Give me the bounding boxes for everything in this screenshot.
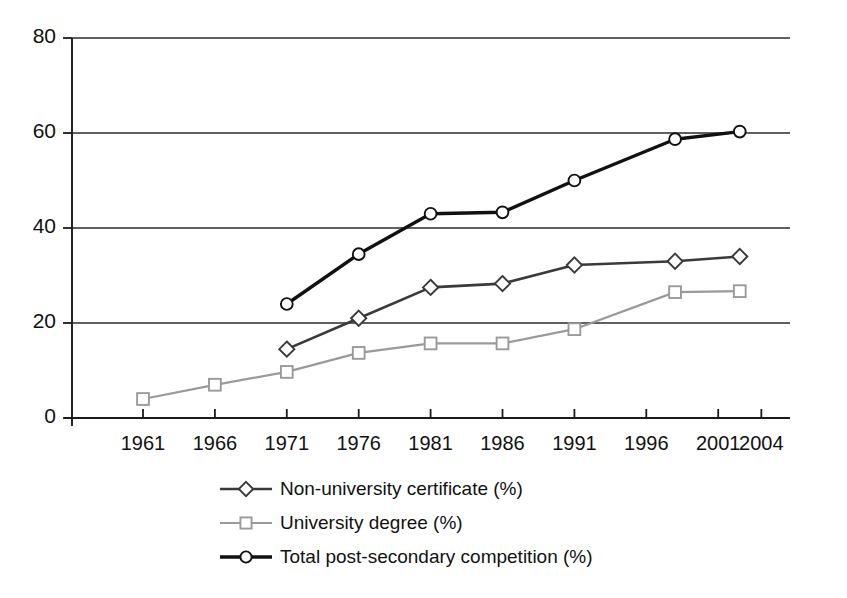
legend-item-0: Non-university certificate (%) (218, 472, 688, 506)
series-line-0 (287, 257, 740, 350)
x-tick-label-2004: 2004 (721, 432, 801, 455)
x-tick-label-1981: 1981 (391, 432, 471, 455)
series-markers (137, 126, 747, 405)
x-tick-label-1961: 1961 (103, 432, 183, 455)
x-tick-label-1996: 1996 (606, 432, 686, 455)
data-point-marker (669, 133, 681, 145)
data-point-marker (569, 175, 581, 187)
data-point-marker (669, 286, 681, 298)
data-point-marker (567, 257, 582, 272)
series-line-2 (287, 132, 740, 304)
legend-marker-circle-icon (218, 545, 274, 569)
y-tick-label-20: 20 (8, 309, 56, 333)
data-point-marker (281, 366, 293, 378)
data-point-marker (495, 276, 510, 291)
data-point-marker (209, 379, 221, 391)
legend-item-2: Total post-secondary competition (%) (218, 540, 688, 574)
data-point-marker (425, 338, 437, 350)
gridlines (72, 38, 790, 418)
data-point-marker (667, 254, 682, 269)
data-point-marker (425, 208, 437, 220)
data-point-marker (497, 206, 509, 218)
series-lines (143, 132, 740, 399)
legend-item-1: University degree (%) (218, 506, 688, 540)
x-tick-label-1971: 1971 (247, 432, 327, 455)
series-line-1 (143, 291, 740, 399)
x-tick-label-1991: 1991 (534, 432, 614, 455)
data-point-marker (423, 280, 438, 295)
data-point-marker (734, 285, 746, 297)
data-point-marker (497, 338, 509, 350)
y-tick-label-80: 80 (8, 24, 56, 48)
y-axis-ticks (63, 38, 72, 418)
chart-figure: 020406080 196119661971197619811986199119… (0, 0, 847, 598)
x-tick-label-1976: 1976 (319, 432, 399, 455)
data-point-marker (734, 126, 746, 138)
data-point-marker (353, 248, 365, 260)
data-point-marker (279, 342, 294, 357)
data-point-marker (281, 298, 293, 310)
legend-label: University degree (%) (274, 512, 463, 534)
legend-marker-diamond-icon (218, 477, 274, 501)
x-tick-label-1986: 1986 (463, 432, 543, 455)
y-tick-label-0: 0 (8, 404, 56, 428)
legend-marker-square-icon (218, 511, 274, 535)
chart-legend: Non-university certificate (%)University… (218, 472, 688, 574)
y-tick-label-40: 40 (8, 214, 56, 238)
x-axis-ticks (143, 409, 761, 418)
legend-label: Non-university certificate (%) (274, 478, 523, 500)
y-tick-label-60: 60 (8, 119, 56, 143)
data-point-marker (137, 393, 149, 405)
data-point-marker (569, 323, 581, 335)
data-point-marker (353, 347, 365, 359)
data-point-marker (732, 249, 747, 264)
x-tick-label-1966: 1966 (175, 432, 255, 455)
legend-label: Total post-secondary competition (%) (274, 546, 593, 568)
